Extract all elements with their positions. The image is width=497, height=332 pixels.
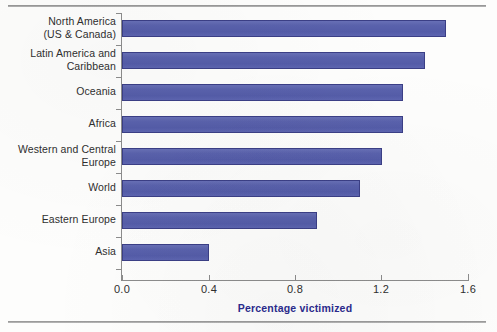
chart-page: North America (US & Canada)Latin America… [0,0,497,332]
bar-1 [122,52,425,69]
y-axis-label-2: Oceania [76,85,116,98]
x-axis-ticklabel-3: 1.2 [359,283,403,295]
y-axis-label-4: Western and Central Europe [18,143,116,168]
y-axis-tick-3 [116,109,122,110]
y-axis-label-0: North America (US & Canada) [44,15,117,40]
y-axis-tick-1 [116,45,122,46]
y-axis-tick-0 [116,13,122,14]
x-axis-tick-3 [381,275,382,281]
y-axis-tick-7 [116,237,122,238]
x-axis-title: Percentage victimized [121,302,469,314]
y-axis-label-1: Latin America and Caribbean [30,47,116,72]
y-axis-tick-8 [116,269,122,270]
x-axis-ticklabel-2: 0.8 [273,283,317,295]
y-axis-tick-5 [116,173,122,174]
x-axis-ticklabel-0: 0.0 [100,283,144,295]
y-axis-label-3: Africa [89,117,116,130]
bar-3 [122,116,403,133]
x-axis-tick-1 [209,275,210,281]
bar-chart-plot-area: North America (US & Canada)Latin America… [0,0,497,332]
x-axis-tick-0 [122,275,123,281]
bar-4 [122,148,382,165]
bar-7 [122,244,209,261]
y-axis-tick-2 [116,77,122,78]
x-axis-ticklabel-4: 1.6 [446,283,490,295]
bar-6 [122,212,317,229]
y-axis-label-7: Asia [95,245,116,258]
x-axis-tick-4 [468,275,469,281]
bar-5 [122,180,360,197]
bar-0 [122,20,446,37]
y-axis-label-5: World [88,181,116,194]
y-axis-tick-4 [116,141,122,142]
x-axis-ticklabel-1: 0.4 [187,283,231,295]
y-axis-label-6: Eastern Europe [42,213,116,226]
bar-2 [122,84,403,101]
y-axis-tick-6 [116,205,122,206]
x-axis-tick-2 [295,275,296,281]
